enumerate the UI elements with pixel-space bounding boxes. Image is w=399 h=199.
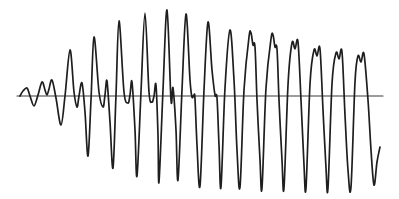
- waveform-path: [20, 10, 380, 193]
- waveform-figure: [0, 0, 399, 199]
- waveform-svg: [0, 0, 399, 199]
